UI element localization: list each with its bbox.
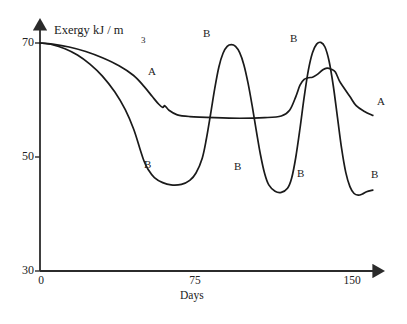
x-axis-title: Days — [180, 290, 204, 302]
curve-label-b-4: B — [234, 161, 241, 172]
x-tick-label-75: 75 — [180, 275, 210, 287]
curve-label-a-1: A — [377, 96, 385, 107]
y-tick-label-50: 50 — [8, 150, 34, 162]
y-axis-title: Exergy kJ / m — [54, 24, 124, 37]
x-tick-label-0: 0 — [26, 275, 56, 287]
y-tick-label-70: 70 — [8, 36, 34, 48]
y-axis-title-superscript: 3 — [141, 36, 146, 45]
curve-series-a — [40, 43, 373, 118]
curve-label-a-0: A — [148, 66, 156, 77]
exergy-chart: Exergy kJ / m 3 Days 70 50 30 0 75 150 A… — [0, 0, 407, 324]
curve-label-b-6: B — [297, 168, 304, 179]
x-tick-label-150: 150 — [337, 275, 367, 287]
curve-label-b-3: B — [203, 28, 210, 39]
curve-series-b — [40, 42, 373, 195]
curve-label-b-7: B — [371, 169, 378, 180]
curve-label-b-5: B — [290, 33, 297, 44]
curve-label-b-2: B — [144, 159, 151, 170]
